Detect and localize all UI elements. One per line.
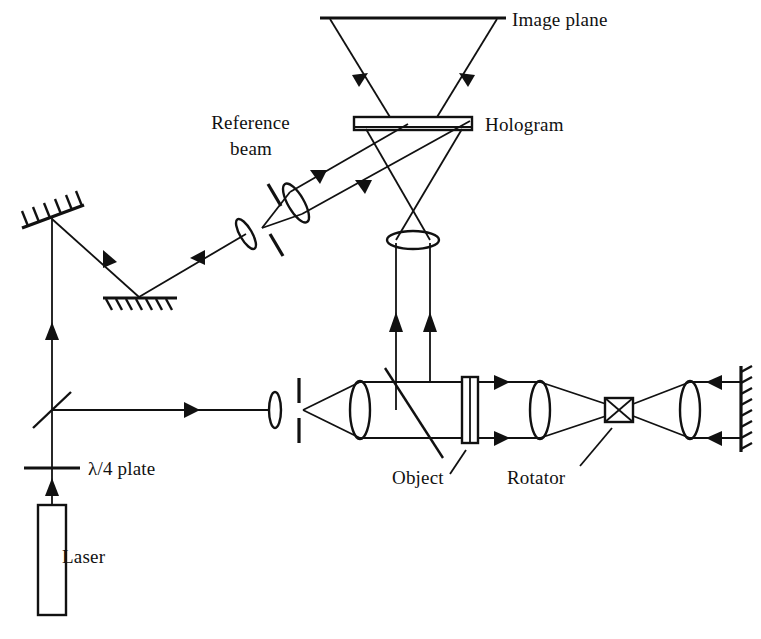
rotator-leader-line <box>580 428 612 466</box>
object-plate-group <box>450 377 478 474</box>
reference-beam-label-line1: Reference <box>211 112 290 133</box>
ray-upper-to-lower-arrowhead <box>103 250 117 268</box>
object-beam-tube-group <box>360 382 470 438</box>
main-horizontal-arrowhead <box>184 402 200 418</box>
reference-ray-lower <box>302 121 470 214</box>
reference-beam-label-line2: beam <box>230 138 272 159</box>
rotator-group <box>580 398 633 466</box>
image-plane-label: Image plane <box>512 9 608 30</box>
mirror-lower-left-group <box>103 298 177 310</box>
imaging-ray-left-arrowhead <box>389 312 403 332</box>
reference-beam-group <box>139 121 470 297</box>
laser-output-arrowhead <box>45 478 59 496</box>
laser-group <box>24 412 80 615</box>
object-label: Object <box>392 467 444 488</box>
reference-ray-lower-arrowhead <box>355 180 372 194</box>
image-plane-group <box>320 18 506 122</box>
reference-ray-upper-arrowhead <box>310 170 327 184</box>
diagram-canvas: Image plane Hologram Reference beam λ/4 … <box>0 0 761 639</box>
mirror-upper-left-surface <box>22 205 84 228</box>
hologram-plate <box>354 117 472 130</box>
reference-input-ray <box>139 234 246 297</box>
object-leader-line <box>450 450 466 474</box>
object-spatial-filter-lens <box>269 392 281 428</box>
relay-ray-bottom-arrowhead <box>494 431 510 446</box>
imaging-lens <box>387 231 439 249</box>
reference-pinhole-lower-blade <box>270 234 283 256</box>
final-ray-top-arrowhead <box>706 375 722 390</box>
hologram-plate-group <box>354 117 472 130</box>
main-horizontal-beam-group <box>52 402 268 418</box>
rotator-label: Rotator <box>507 467 566 488</box>
quarter-wave-plate-label: λ/4 plate <box>88 458 155 479</box>
image-beam-left <box>330 19 393 122</box>
hologram-label: Hologram <box>485 114 564 135</box>
ray-upper-to-lower-mirror <box>52 219 139 297</box>
optical-diagram-figure: Image plane Hologram Reference beam λ/4 … <box>0 0 761 639</box>
mirror-right-group <box>741 366 752 452</box>
object-beam-cross-right <box>366 129 430 240</box>
object-collimating-lens <box>350 381 370 439</box>
object-beam-cross-left <box>396 129 462 240</box>
mirror-lower-left-hatching <box>106 299 172 310</box>
object-to-relay-group <box>478 375 606 446</box>
final-ray-bottom-arrowhead <box>706 431 722 446</box>
object-spatial-filter-group <box>269 378 370 443</box>
mirror-upper-left-group <box>22 191 139 412</box>
reference-collimating-lens <box>278 180 314 226</box>
relay-lens <box>530 381 550 439</box>
laser-label: Laser <box>62 546 106 567</box>
image-beam-right <box>434 19 497 122</box>
object-beam-cross-group <box>366 129 462 240</box>
vertical-ray-arrowhead <box>45 322 59 340</box>
image-beam-left-arrowhead <box>352 73 368 87</box>
relay-ray-top-arrowhead <box>494 375 510 390</box>
reference-pinhole-upper-blade <box>268 184 281 206</box>
image-beam-right-arrowhead <box>459 73 475 87</box>
final-lens <box>680 381 700 439</box>
final-arm-group <box>633 375 740 446</box>
reference-ray-upper <box>290 124 408 192</box>
mirror-right-hatching <box>741 366 752 449</box>
imaging-ray-right-arrowhead <box>423 312 437 332</box>
